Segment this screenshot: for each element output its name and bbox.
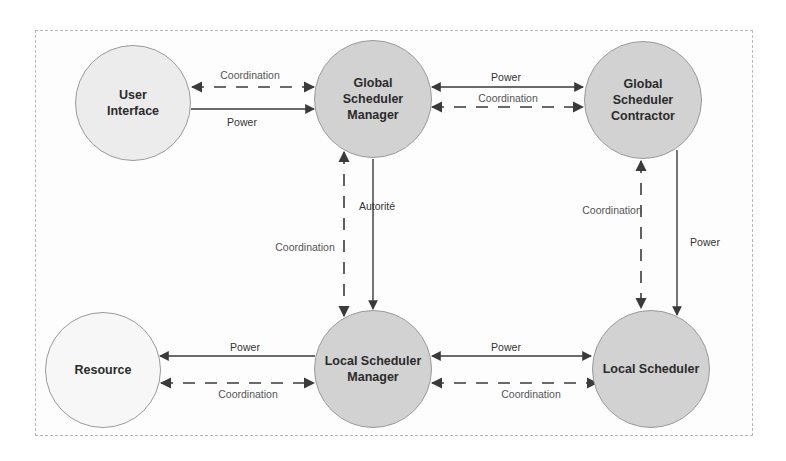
edge-label-gsm-gsc-power: Power bbox=[491, 71, 521, 83]
edge-label-gsm-lsm-autorite: Autorité bbox=[359, 200, 395, 212]
edge-label-lsm-resource-power: Power bbox=[230, 341, 260, 353]
node-label: Local Scheduler bbox=[603, 361, 700, 377]
node-label: User Interface bbox=[107, 87, 159, 119]
edge-label-gsc-ls-coordination: Coordination bbox=[582, 204, 642, 216]
edge-label-ui-gsm-coordination: Coordination bbox=[220, 69, 280, 81]
node-global-scheduler-contractor: Global Scheduler Contractor bbox=[584, 41, 702, 159]
diagram-canvas: User Interface Global Scheduler Manager … bbox=[0, 0, 786, 461]
edge-label-gsm-gsc-coordination: Coordination bbox=[478, 92, 538, 104]
edge-label-gsm-lsm-coordination: Coordination bbox=[275, 241, 335, 253]
edge-label-ui-gsm-power: Power bbox=[227, 116, 257, 128]
node-resource: Resource bbox=[45, 312, 161, 428]
node-label: Resource bbox=[75, 362, 132, 378]
node-label: Global Scheduler Contractor bbox=[611, 76, 675, 124]
node-label: Local Scheduler Manager bbox=[325, 353, 422, 385]
edge-label-resource-lsm-coordination: Coordination bbox=[218, 388, 278, 400]
node-user-interface: User Interface bbox=[75, 45, 191, 161]
edge-label-lsm-ls-power: Power bbox=[491, 341, 521, 353]
node-label: Global Scheduler Manager bbox=[343, 75, 403, 123]
edge-label-gsc-ls-power: Power bbox=[690, 236, 720, 248]
node-local-scheduler-manager: Local Scheduler Manager bbox=[314, 310, 432, 428]
node-local-scheduler: Local Scheduler bbox=[592, 310, 710, 428]
edge-label-lsm-ls-coordination: Coordination bbox=[501, 388, 561, 400]
node-global-scheduler-manager: Global Scheduler Manager bbox=[314, 40, 432, 158]
